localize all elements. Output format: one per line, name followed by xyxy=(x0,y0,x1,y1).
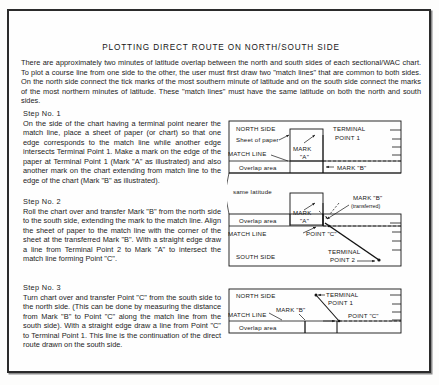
panel-3-overlap-label: Overlap area xyxy=(239,324,277,331)
panel-1-terminal-label-line2: POINT 1 xyxy=(335,134,360,141)
panel-3-point-c-label: POINT "C" xyxy=(348,312,379,319)
panel-2-match-line-label: MATCH LINE xyxy=(228,230,266,237)
panel-3-group: NORTH SIDE MATCH LINE Overlap area MARK … xyxy=(228,289,401,333)
panel-3-terminal-label-line2: POINT 1 xyxy=(328,299,353,306)
panel-2-terminal-point-2-dot xyxy=(377,258,380,261)
diagram-illustrations: NORTH SIDE Sheet of paper MATCH LINE Ove… xyxy=(227,115,427,365)
panel-2-point-c-label: POINT "C" xyxy=(306,230,337,237)
same-latitude-label: same latitude xyxy=(233,188,272,195)
panel-2-mark-a-label-line1: MARK xyxy=(293,209,311,216)
panel-2-group: Overlap area MATCH LINE SOUTH SIDE MARK … xyxy=(228,193,401,266)
panel-2-point-c-dot xyxy=(328,225,331,228)
panel-2-mark-b-label-line2: (transferred) xyxy=(351,203,380,209)
panel-2-mark-b-leader-arrow xyxy=(327,205,349,219)
panel-3-match-line-leader xyxy=(269,313,282,320)
panel-2-terminal-label-line1: TERMINAL xyxy=(328,248,361,255)
panel-2-terminal-label-line2: POINT 2 xyxy=(330,256,355,263)
panel-2-south-side-label: SOUTH SIDE xyxy=(236,253,275,260)
panel-2-mark-b-label-line1: MARK "B" xyxy=(353,194,382,201)
step-1-heading: Step No. 1 xyxy=(23,109,221,119)
panel-1-mark-a-label-line2: "A" xyxy=(300,153,309,160)
step-2-body: Roll the chart over and transfer Mark "B… xyxy=(23,207,221,264)
same-latitude-line-upper xyxy=(227,173,229,193)
page-title: PLOTTING DIRECT ROUTE ON NORTH/SOUTH SID… xyxy=(9,43,433,52)
panel-1-match-line-leader xyxy=(271,155,288,161)
panel-1-mark-b-label: MARK "B" xyxy=(337,164,366,171)
panel-1-overlap-label: Overlap area xyxy=(239,164,277,171)
panel-3-north-side-label: NORTH SIDE xyxy=(236,292,275,299)
panel-1-terminal-label-line1: TERMINAL xyxy=(333,125,366,132)
panel-1-mark-a-leader-arrow xyxy=(304,135,315,143)
panel-1-sheet-leader-arrow xyxy=(279,135,289,140)
panel-1-mark-a-label-line1: MARK xyxy=(293,145,311,152)
panel-3-match-line-label: MATCH LINE xyxy=(228,311,266,318)
step-3-body: Turn chart over and transfer Point "C" f… xyxy=(23,293,221,350)
page-root: PLOTTING DIRECT ROUTE ON NORTH/SOUTH SID… xyxy=(0,0,439,385)
intro-paragraph: There are approximately two minutes of l… xyxy=(21,58,421,106)
panel-1-north-side-label: NORTH SIDE xyxy=(236,125,275,132)
document-frame: PLOTTING DIRECT ROUTE ON NORTH/SOUTH SID… xyxy=(7,9,431,373)
same-latitude-connector: same latitude xyxy=(227,173,272,214)
panel-3-point-c-dot xyxy=(338,320,341,323)
panel-2-mark-a-label-line2: "A" xyxy=(300,217,309,224)
panel-1-match-line-label: MATCH LINE xyxy=(228,150,266,157)
step-3-heading: Step No. 3 xyxy=(23,283,221,293)
same-latitude-line-lower xyxy=(227,193,229,214)
panel-2-overlap-label: Overlap area xyxy=(239,217,277,224)
step-2-block: Step No. 2 Roll the chart over and trans… xyxy=(23,197,221,264)
panel-3-terminal-label-line1: TERMINAL xyxy=(326,291,359,298)
panel-3-mark-b-label: MARK "B" xyxy=(276,306,305,313)
step-1-body: On the side of the chart having a termin… xyxy=(23,119,221,186)
panel-1-group: NORTH SIDE Sheet of paper MATCH LINE Ove… xyxy=(228,121,401,173)
panel-3-mark-b-leader xyxy=(299,314,305,320)
panel-3-terminal-point-1-dot xyxy=(315,294,318,297)
panel-1-sheet-label: Sheet of paper xyxy=(236,136,279,143)
step-3-block: Step No. 3 Turn chart over and transfer … xyxy=(23,283,221,350)
diagrams-svg: NORTH SIDE Sheet of paper MATCH LINE Ove… xyxy=(227,115,427,365)
step-1-block: Step No. 1 On the side of the chart havi… xyxy=(23,109,221,185)
step-2-heading: Step No. 2 xyxy=(23,197,221,207)
